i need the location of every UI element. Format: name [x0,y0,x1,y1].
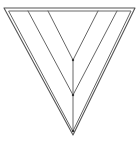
vertex-dot [72,130,74,132]
vertex-dot [72,59,74,61]
inner-triangle-outline [9,11,131,131]
inner-chevron [48,11,98,60]
vertex-dot [72,94,74,96]
inverted-triangle-diagram [0,0,137,142]
outer-triangle [4,8,135,135]
diagram-svg [0,0,137,142]
